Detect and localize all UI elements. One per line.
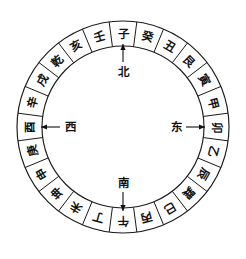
sector-label-2: 丑 — [161, 37, 178, 55]
sector-label-5: 甲 — [205, 96, 221, 110]
direction-label-south: 南 — [118, 176, 130, 190]
sector-label-20: 戌 — [33, 71, 51, 88]
sector-divider — [134, 22, 137, 47]
sector-label-8: 辰 — [195, 165, 213, 182]
direction-label-east: 东 — [171, 120, 183, 134]
sector-divider — [109, 22, 112, 47]
sector-divider — [109, 207, 112, 232]
sector-label-17: 庚 — [24, 143, 41, 158]
sector-label-11: 丙 — [140, 209, 154, 225]
sector-label-16: 申 — [33, 165, 51, 182]
sector-label-0: 子 — [118, 27, 130, 41]
sector-label-6: 卯 — [210, 122, 224, 133]
sector-label-19: 辛 — [25, 95, 42, 110]
sector-divider — [18, 113, 43, 116]
sector-label-7: 乙 — [205, 144, 222, 159]
sector-divider — [203, 113, 228, 116]
sector-label-4: 寅 — [195, 72, 213, 89]
sector-label-13: 丁 — [91, 209, 106, 226]
sector-label-12: 午 — [117, 214, 129, 228]
direction-arrow-head-north — [120, 44, 125, 50]
sector-label-18: 酉 — [23, 121, 37, 133]
sector-label-15: 坤 — [48, 184, 66, 202]
sector-label-21: 乾 — [48, 51, 66, 69]
sector-label-3: 艮 — [180, 52, 198, 70]
sector-divider — [18, 138, 43, 141]
sector-label-23: 壬 — [92, 28, 107, 45]
compass-diagram: 子癸丑艮寅甲卯乙辰巽巳丙午丁未坤申庚酉辛戌乾亥壬 北南东西 — [0, 0, 246, 259]
sector-divider — [203, 138, 228, 141]
sector-label-1: 癸 — [139, 28, 155, 45]
sector-label-14: 未 — [67, 199, 85, 218]
direction-label-west: 西 — [65, 120, 77, 134]
sector-label-10: 巳 — [161, 199, 178, 217]
direction-label-north: 北 — [118, 65, 130, 79]
sector-label-9: 巽 — [180, 184, 198, 202]
sector-label-22: 亥 — [68, 37, 85, 55]
sector-divider — [134, 207, 137, 232]
compass-svg: 子癸丑艮寅甲卯乙辰巽巳丙午丁未坤申庚酉辛戌乾亥壬 北南东西 — [0, 0, 246, 259]
